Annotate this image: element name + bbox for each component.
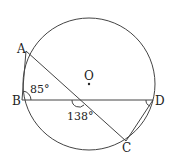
label-b: B	[12, 94, 21, 108]
label-c: C	[122, 141, 131, 155]
label-o: O	[84, 69, 94, 83]
center-dot	[88, 83, 90, 85]
segment-cd	[126, 100, 153, 141]
segment-ac	[26, 51, 126, 141]
label-d: D	[155, 94, 165, 108]
angle-label-85: 85°	[30, 83, 50, 96]
geometry-figure: A B C D O 85° 138°	[0, 0, 170, 164]
angle-label-138: 138°	[67, 110, 94, 123]
label-a: A	[16, 42, 26, 56]
